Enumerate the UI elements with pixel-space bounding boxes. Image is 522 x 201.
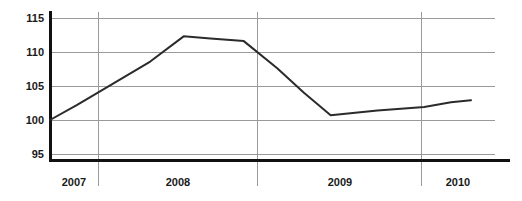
y-tick-label-110: 110 — [26, 46, 44, 58]
y-tick-label-95: 95 — [32, 148, 44, 160]
y-tick-label-100: 100 — [26, 114, 44, 126]
chart-background — [0, 0, 522, 201]
x-tick-label-2009: 2009 — [328, 176, 352, 188]
x-tick-label-2007: 2007 — [62, 176, 86, 188]
chart-screenshot: 115 110 105 100 95 2007 2008 2009 2010 — [0, 0, 522, 201]
y-tick-label-115: 115 — [26, 12, 44, 24]
x-tick-label-2008: 2008 — [166, 176, 190, 188]
line-chart: 115 110 105 100 95 2007 2008 2009 2010 — [0, 0, 522, 201]
x-tick-label-2010: 2010 — [446, 176, 470, 188]
y-tick-label-105: 105 — [26, 80, 44, 92]
